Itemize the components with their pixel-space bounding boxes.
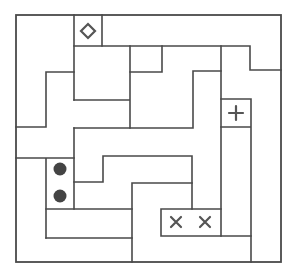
filled-circle-icon bbox=[54, 163, 67, 176]
cross-icon bbox=[171, 217, 181, 227]
wall-left-upper bbox=[16, 72, 74, 127]
wall-diamond-cell bbox=[74, 15, 102, 100]
wall-inner-step bbox=[132, 183, 192, 262]
filled-circle-icon bbox=[54, 190, 67, 203]
wall-bottom-bars bbox=[46, 209, 132, 238]
wall-top-horizontal bbox=[74, 46, 281, 70]
region-walls bbox=[16, 15, 281, 262]
wall-plus-cell bbox=[221, 99, 251, 262]
cross-icon bbox=[200, 217, 210, 227]
wall-notch bbox=[130, 46, 162, 72]
board-frame bbox=[16, 15, 281, 262]
wall-center-block bbox=[74, 46, 130, 128]
puzzle-board bbox=[0, 0, 297, 275]
diamond-icon bbox=[81, 24, 95, 38]
plus-icon bbox=[229, 106, 243, 120]
